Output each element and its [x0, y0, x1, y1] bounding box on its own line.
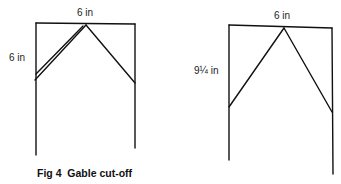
- top-edge: [36, 23, 135, 24]
- left-cut-line: [229, 28, 284, 107]
- right-cut-line: [86, 25, 135, 83]
- width-label: 6 in: [77, 7, 93, 18]
- square-gable-panel: 6 in 6 in: [9, 7, 135, 155]
- left-cut-line-double: [36, 26, 83, 74]
- tall-gable-panel: 6 in 9¼ in: [194, 10, 333, 174]
- width-label: 6 in: [274, 10, 290, 21]
- top-edge: [229, 25, 332, 28]
- height-label: 6 in: [9, 52, 25, 63]
- right-edge: [332, 28, 333, 174]
- left-cut-line: [35, 25, 86, 80]
- figure-caption: Fig 4 Gable cut-off: [37, 167, 133, 179]
- right-cut-line: [284, 28, 332, 112]
- height-label: 9¼ in: [194, 65, 218, 76]
- gable-diagram: 6 in 6 in 6 in 9¼ in Fig 4 Gable cut-off: [0, 0, 341, 184]
